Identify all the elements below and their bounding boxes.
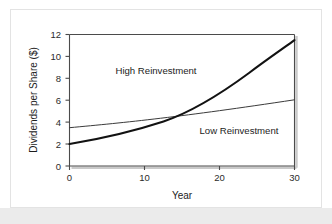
chart-svg: 12 10 8 6 4 2 0 0 10 (11, 10, 323, 209)
y-tick-label: 6 (56, 95, 61, 106)
y-tick-label: 0 (56, 161, 61, 172)
y-tick-label: 4 (56, 117, 61, 128)
x-axis-title: Year (172, 190, 193, 201)
x-tick-label: 20 (214, 172, 225, 183)
series-annotation-high-reinvestment: High Reinvestment (115, 65, 196, 76)
y-tick-label: 8 (56, 73, 61, 84)
clipped-top-text (8, 0, 208, 3)
y-tick-labels: 12 10 8 6 4 2 0 (50, 29, 61, 172)
y-axis-title: Dividends per Share ($) (28, 47, 39, 153)
figure-card: 12 10 8 6 4 2 0 0 10 (10, 9, 322, 208)
page-backdrop (0, 208, 332, 224)
x-tick-label: 10 (139, 172, 150, 183)
screenshot-root: 12 10 8 6 4 2 0 0 10 (0, 0, 332, 224)
plot-frame-top-right (70, 35, 295, 167)
x-tick-label: 0 (67, 172, 72, 183)
x-tick-labels: 0 10 20 30 (67, 172, 300, 183)
y-tick-label: 12 (50, 29, 61, 40)
plot-frame-shadow (72, 36, 297, 168)
y-tick-label: 2 (56, 139, 61, 150)
series-annotation-low-reinvestment: Low Reinvestment (200, 125, 279, 136)
y-tick-marks (66, 35, 70, 167)
x-tick-label: 30 (289, 172, 300, 183)
y-tick-label: 10 (50, 51, 61, 62)
line-chart: 12 10 8 6 4 2 0 0 10 (11, 10, 323, 209)
plot-axes (70, 35, 295, 167)
